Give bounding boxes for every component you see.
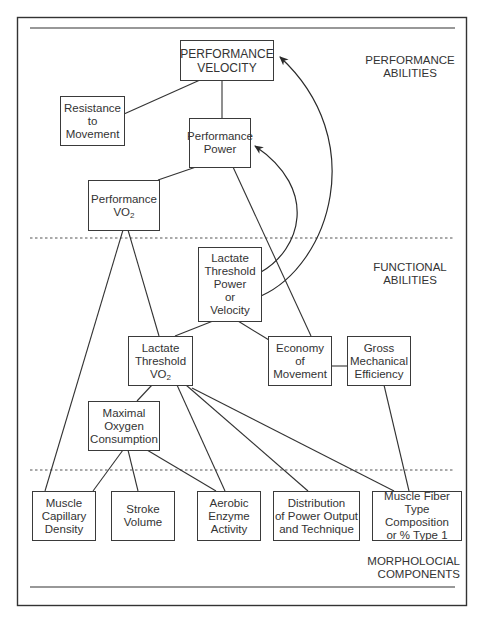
section-label-functional: FUNCTIONAL ABILITIES <box>340 261 480 287</box>
section-label-morphological: MORPHOLOCIAL COMPONENTS <box>290 555 460 581</box>
node-performance-vo2: Performance VO2 <box>88 180 160 231</box>
node-aerobic-enzyme-activity: Aerobic Enzyme Activity <box>197 491 261 541</box>
node-muscle-capillary-density: Muscle Capillary Density <box>32 491 96 541</box>
node-maximal-oxygen-consumption: Maximal Oxygen Consumption <box>88 401 160 451</box>
node-muscle-fiber-type: Muscle Fiber Type Composition or % Type … <box>372 491 462 541</box>
node-gross-mechanical-efficiency: Gross Mechanical Efficiency <box>347 336 411 386</box>
node-resistance-to-movement: Resistance to Movement <box>60 96 125 146</box>
node-economy-of-movement: Economy of Movement <box>268 336 332 386</box>
arrow-lt-to-velocity <box>261 57 332 296</box>
node-performance-velocity: PERFORMANCE VELOCITY <box>180 40 274 81</box>
node-distribution-power-output: Distribution of Power Output and Techniq… <box>273 491 360 541</box>
section-label-performance: PERFORMANCE ABILITIES <box>340 54 480 80</box>
performance-model-diagram: PERFORMANCE ABILITIES FUNCTIONAL ABILITI… <box>0 0 499 617</box>
node-lactate-threshold-vo2: Lactate Threshold VO2 <box>128 336 193 386</box>
node-performance-power: Performance Power <box>189 118 251 168</box>
node-stroke-volume: Stroke Volume <box>111 491 175 541</box>
node-lactate-threshold-power: Lactate Threshold Power or Velocity <box>198 247 262 322</box>
